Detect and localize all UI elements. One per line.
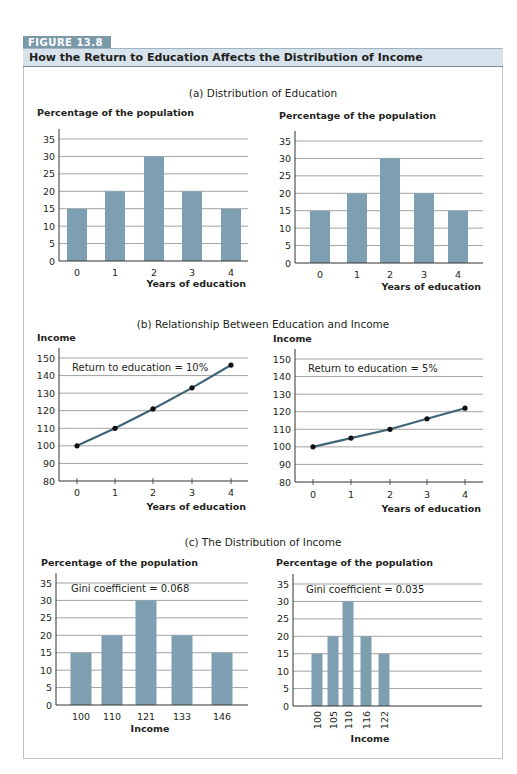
y-tick-label: 10 xyxy=(277,666,289,677)
y-tick-label: 25 xyxy=(277,613,289,624)
x-tick-label: 100 xyxy=(312,711,323,729)
bar xyxy=(361,636,372,706)
chart-annotation: Gini coefficient = 0.035 xyxy=(306,584,424,595)
bar xyxy=(343,601,354,706)
bar xyxy=(379,654,390,706)
y-tick-label: 5 xyxy=(283,683,289,694)
y-axis-label: Percentage of the population xyxy=(276,557,433,568)
x-axis-label: Income xyxy=(351,733,390,744)
bar xyxy=(312,654,323,706)
x-tick-label: 105 xyxy=(328,711,339,729)
y-tick-label: 15 xyxy=(277,648,289,659)
x-tick-label: 122 xyxy=(379,711,390,729)
y-tick-label: 0 xyxy=(283,701,289,712)
x-tick-label: 110 xyxy=(343,711,354,729)
y-tick-label: 30 xyxy=(277,596,289,607)
y-tick-label: 20 xyxy=(277,631,289,642)
x-tick-label: 116 xyxy=(361,711,372,729)
chart-c-right: 05101520253035100105110116122Percentage … xyxy=(0,0,517,774)
bar xyxy=(328,636,339,706)
y-tick-label: 35 xyxy=(277,579,289,590)
